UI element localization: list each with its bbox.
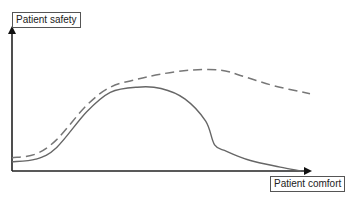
chart-canvas: [0, 0, 350, 201]
x-axis-label: Patient comfort: [270, 176, 345, 192]
y-axis-label: Patient safety: [12, 12, 81, 28]
solid-curve: [12, 87, 301, 171]
dashed-curve: [12, 69, 310, 157]
